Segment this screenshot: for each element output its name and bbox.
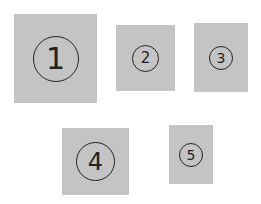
box-label-1: 1 [46,41,65,76]
circled-number-1: 1 [33,36,79,82]
circled-number-3: 3 [209,46,233,70]
box-label-4: 4 [88,148,103,176]
circled-number-5: 5 [179,143,203,167]
box-label-2: 2 [141,49,151,67]
circled-number-2: 2 [132,45,159,72]
numbered-box-5: 5 [169,125,213,184]
numbered-box-1: 1 [14,14,97,103]
box-label-3: 3 [217,50,226,66]
numbered-box-4: 4 [62,128,129,195]
numbered-box-2: 2 [116,25,175,91]
circled-number-4: 4 [76,142,115,181]
numbered-box-3: 3 [194,23,248,92]
box-label-5: 5 [187,147,196,163]
